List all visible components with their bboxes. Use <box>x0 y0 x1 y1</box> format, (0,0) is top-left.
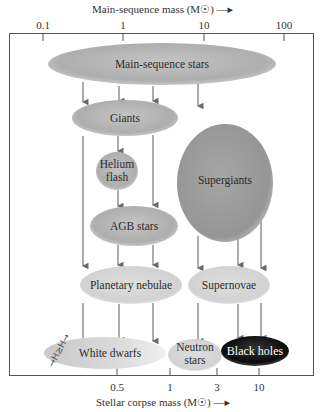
bottom-axis-title: Stellar corpse mass (M☉) —▸ <box>96 396 230 409</box>
label-main-sequence-stars: Main-sequence stars <box>115 58 209 71</box>
bottom-tick-label: 10 <box>254 381 265 393</box>
bottom-tick-label: 0.5 <box>110 381 124 393</box>
label-helium-flash: Helium flash <box>100 158 135 184</box>
label-supernovae: Supernovae <box>202 279 256 292</box>
label-neutron-stars-line2: stars <box>176 354 214 367</box>
label-helium-flash-line1: Helium <box>100 158 135 171</box>
label-neutron-stars-line1: Neutron <box>176 341 214 354</box>
label-giants: Giants <box>110 112 140 125</box>
bottom-tick-label: 1 <box>167 381 173 393</box>
label-neutron-stars: Neutron stars <box>176 341 214 367</box>
label-agb-stars: AGB stars <box>110 220 158 233</box>
label-white-dwarfs: White dwarfs <box>79 347 141 360</box>
label-helium-flash-line2: flash <box>100 171 135 184</box>
label-supergiants: Supergiants <box>198 174 252 187</box>
label-planetary-nebulae: Planetary nebulae <box>90 279 172 292</box>
bottom-tick-label: 3 <box>214 381 220 393</box>
label-black-holes: Black holes <box>227 345 283 358</box>
